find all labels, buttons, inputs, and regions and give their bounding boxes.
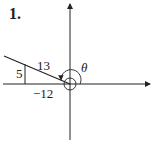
adjacent-label: −12 [33,87,53,100]
theta-label: θ [81,61,87,74]
angle-diagram [0,0,153,141]
hypotenuse-label: 13 [37,59,50,72]
opposite-label: 5 [16,67,23,80]
